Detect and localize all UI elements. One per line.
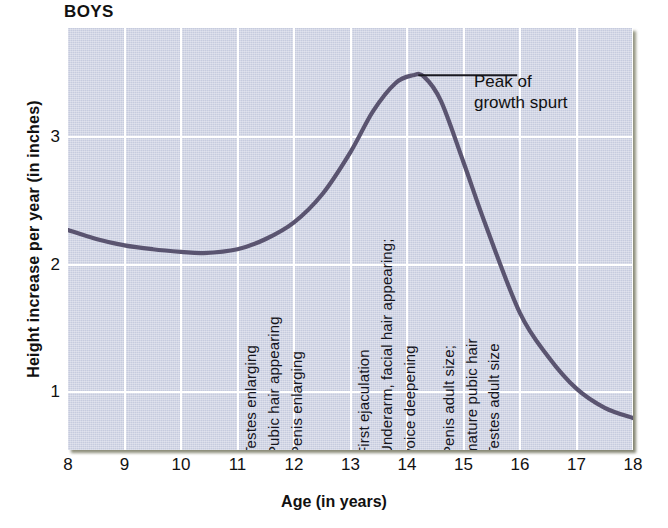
x-tick-15: 15 [454,455,473,475]
peak-callout-line-2: growth spurt [474,93,568,114]
x-tick-11: 11 [229,455,247,475]
peak-callout: Peak of growth spurt [474,72,568,113]
x-tick-8: 8 [63,455,72,475]
x-tick-17: 17 [567,455,586,475]
x-axis-title: Age (in years) [0,493,668,511]
peak-callout-line-1: Peak of [474,72,568,93]
x-tick-14: 14 [398,455,417,475]
growth-spurt-chart-figure: BOYS Height increase per year (in inches… [0,0,668,528]
chart-title: BOYS [64,2,114,22]
x-tick-10: 10 [172,455,191,475]
y-tick-3: 3 [36,127,60,147]
x-tick-13: 13 [341,455,360,475]
x-tick-12: 12 [285,455,304,475]
y-tick-1: 1 [36,382,60,402]
x-tick-18: 18 [624,455,643,475]
x-tick-9: 9 [120,455,129,475]
x-tick-16: 16 [511,455,530,475]
y-tick-2: 2 [36,255,60,275]
